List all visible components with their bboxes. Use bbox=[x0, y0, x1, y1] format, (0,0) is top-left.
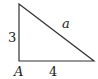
right-triangle-diagram: 3 a A 4 bbox=[0, 0, 98, 79]
horizontal-side-label: 4 bbox=[49, 64, 57, 79]
triangle bbox=[19, 4, 94, 61]
vertical-side-label: 3 bbox=[8, 30, 16, 45]
vertex-label-a: A bbox=[13, 64, 23, 79]
hypotenuse-label: a bbox=[62, 16, 70, 31]
